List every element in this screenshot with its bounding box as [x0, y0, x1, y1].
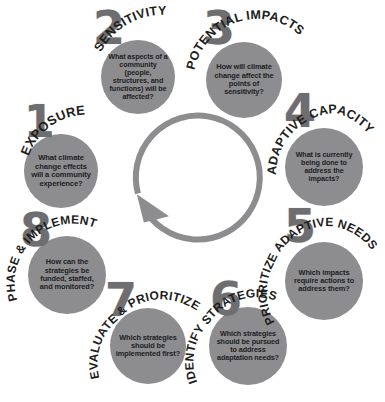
step-7-question: Which strategies should be implemented f… [110, 334, 186, 359]
step-6-question: Which strategies should be pursued to ad… [209, 330, 287, 362]
step-5-number: 5 [284, 208, 316, 245]
step-1-number: 1 [24, 104, 55, 139]
step-8-number: 8 [20, 212, 52, 249]
step-8-question: How can the strategies be funded, staffe… [28, 258, 106, 291]
cycle-arrow-icon [118, 110, 278, 270]
step-2-question: What aspects of a community (people, str… [101, 53, 175, 101]
step-3-number: 3 [203, 10, 235, 47]
step-5-bubble: Which impacts require actions to address… [285, 242, 363, 320]
step-4-bubble: What is currently being done to address … [285, 128, 363, 206]
adaptation-cycle-diagram: 1 EXPOSURE What climate change effects w… [0, 0, 385, 402]
step-6-number: 6 [210, 281, 242, 318]
step-1-question: What climate change effects will a commu… [24, 154, 98, 188]
step-5-question: Which impacts require actions to address… [285, 269, 363, 294]
step-7-number: 7 [105, 282, 137, 319]
step-3-question: How will climate change affect the point… [206, 63, 282, 96]
step-4-question: What is currently being done to address … [285, 151, 363, 183]
step-4-number: 4 [284, 93, 316, 130]
step-2-number: 2 [93, 10, 125, 47]
